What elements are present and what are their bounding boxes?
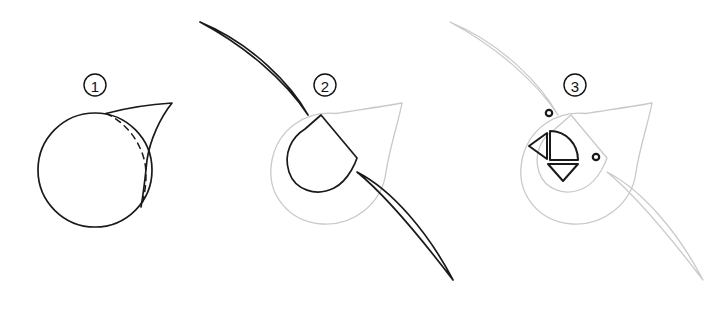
step-3-label: 3 <box>564 74 586 96</box>
tutorial-canvas: 1 2 <box>0 0 706 314</box>
step-2-label-text: 2 <box>321 78 329 95</box>
anchor-dot-right-ring <box>593 154 599 160</box>
step-2-label: 2 <box>314 74 336 96</box>
step-1-label: 1 <box>84 74 106 96</box>
step-3-label-text: 3 <box>571 78 579 95</box>
tutorial-illustration: 1 2 <box>0 0 706 314</box>
anchor-dot-top-ring <box>546 110 552 116</box>
anchor-dot-right <box>593 154 599 160</box>
step-1-label-text: 1 <box>91 78 99 95</box>
anchor-dot-top <box>546 110 552 116</box>
